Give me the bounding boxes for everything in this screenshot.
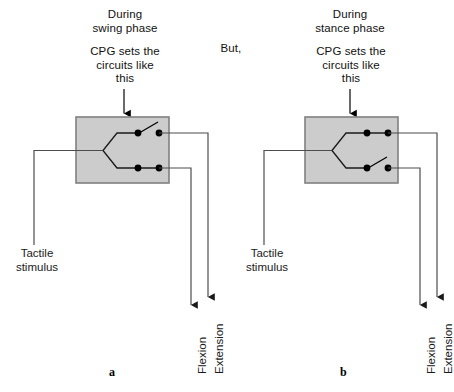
panel-a-contact-bottom-left: [135, 165, 142, 172]
panel-a-heading: During swing phase: [74, 8, 176, 35]
panel-b-heading: During stance phase: [296, 8, 404, 35]
panel-b-tactile-stimulus-label: Tactile stimulus: [235, 247, 299, 274]
panel-a-flexion-output-wire: [159, 168, 191, 305]
panel-b-figure-label: b: [340, 365, 347, 380]
panel-a-figure-label: a: [109, 365, 115, 380]
connector-but-text: But,: [208, 42, 254, 56]
panel-a-extension-label: Extension: [213, 323, 225, 374]
panel-b-flexion-output-wire: [388, 168, 420, 305]
panel-b-contact-top-left: [364, 130, 371, 137]
panel-a-flexion-label: Flexion: [196, 337, 208, 374]
panel-b-extension-label: Extension: [442, 323, 454, 374]
panel-a-subheading: CPG sets the circuits like this: [66, 45, 184, 86]
panel-b-flexion-label: Flexion: [425, 337, 437, 374]
panel-a-tactile-stimulus-label: Tactile stimulus: [5, 247, 69, 274]
panel-a-contact-top-left: [135, 130, 142, 137]
panel-b-subheading: CPG sets the circuits like this: [292, 45, 410, 86]
panel-b-contact-bottom-left: [364, 165, 371, 172]
